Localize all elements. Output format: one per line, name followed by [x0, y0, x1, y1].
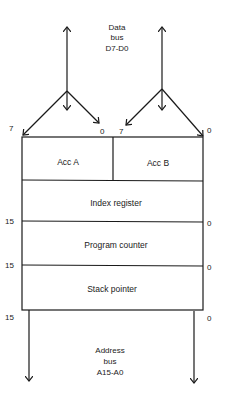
bit-label-sp-msb: 15	[5, 313, 14, 322]
bit-label-acc-a-lsb: 0	[100, 127, 105, 136]
pc-bottom-line	[22, 265, 203, 266]
address-bus-label-2: bus	[104, 357, 117, 366]
register-acc-a: Acc A	[57, 157, 79, 167]
register-stack-pointer: Stack pointer	[87, 284, 137, 294]
address-bus-label-3: A15-A0	[97, 368, 124, 377]
acc-bottom-line	[22, 180, 203, 181]
index-bottom-line	[22, 221, 203, 222]
bit-label-idx-lsb: 0	[207, 219, 212, 228]
data-bus-arrow-right	[126, 27, 203, 136]
bit-label-acc-a-msb: 7	[9, 124, 14, 133]
bit-label-acc-b-lsb: 0	[207, 126, 212, 135]
register-index: Index register	[90, 198, 142, 208]
data-bus-label-2: bus	[111, 33, 124, 42]
bit-label-idx-msb: 15	[5, 217, 14, 226]
bit-label-pc-lsb: 0	[207, 263, 212, 272]
address-bus-label-1: Address	[95, 346, 124, 355]
data-bus-arrow-left	[23, 27, 99, 135]
register-program-counter: Program counter	[84, 240, 147, 250]
bit-label-acc-b-msb: 7	[119, 127, 124, 136]
data-bus-label-1: Data	[109, 23, 126, 32]
data-bus-label-3: D7-D0	[105, 44, 129, 53]
bit-label-pc-msb: 15	[5, 261, 14, 270]
register-acc-b: Acc B	[147, 158, 170, 168]
register-diagram: Data bus D7-D0 Acc A Acc B Index registe…	[0, 0, 225, 401]
bit-label-sp-lsb: 0	[207, 314, 212, 323]
